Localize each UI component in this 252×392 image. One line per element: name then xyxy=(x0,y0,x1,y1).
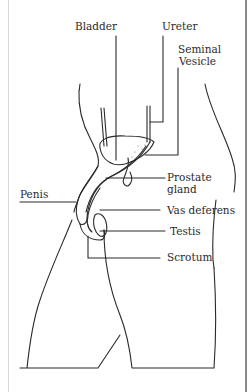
label-penis: Penis xyxy=(20,188,48,200)
label-prostate-line2: gland xyxy=(167,183,197,195)
bladder-shape xyxy=(100,136,154,165)
label-seminal-vesicle-line1: Seminal xyxy=(178,43,221,55)
penis-outline xyxy=(76,166,100,225)
diagram-frame: Bladder Ureter Seminal Vesicle Prostate … xyxy=(0,0,252,392)
label-scrotum: Scrotum xyxy=(167,251,212,263)
label-testis: Testis xyxy=(170,225,201,237)
ureter-leader xyxy=(150,36,163,122)
scrotum-leader xyxy=(88,236,160,258)
ureter-tube-right xyxy=(147,106,150,142)
label-ureter: Ureter xyxy=(162,20,198,32)
label-seminal-vesicle-line2: Vesicle xyxy=(179,55,216,67)
label-bladder: Bladder xyxy=(75,20,117,32)
vas-deferens-tube xyxy=(87,142,150,232)
label-vas-deferens: Vas deferens xyxy=(167,204,235,216)
leg-front xyxy=(20,220,120,368)
label-prostate-line1: Prostate xyxy=(167,171,212,183)
